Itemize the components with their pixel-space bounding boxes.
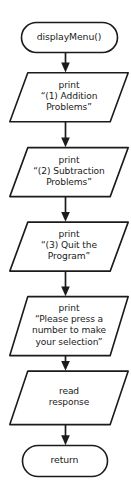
arrow-read-end — [61, 425, 70, 446]
process-read-shape — [10, 371, 128, 425]
arrow-start-print1 — [61, 53, 70, 73]
process-print1-shape — [10, 73, 128, 122]
arrow-print4-read — [61, 356, 70, 371]
arrow-print3-print4 — [61, 271, 70, 296]
flowchart-canvas — [0, 0, 131, 488]
process-print2-shape — [10, 148, 128, 197]
flowchart-diagram: displayMenu() print “(1) Addition Proble… — [0, 0, 131, 488]
arrow-print1-print2 — [61, 122, 70, 148]
process-print3-shape — [10, 222, 128, 271]
terminal-end-shape — [23, 446, 108, 477]
arrow-print2-print3 — [61, 197, 70, 222]
process-print4-shape — [10, 297, 128, 356]
terminal-start-shape — [22, 23, 118, 53]
